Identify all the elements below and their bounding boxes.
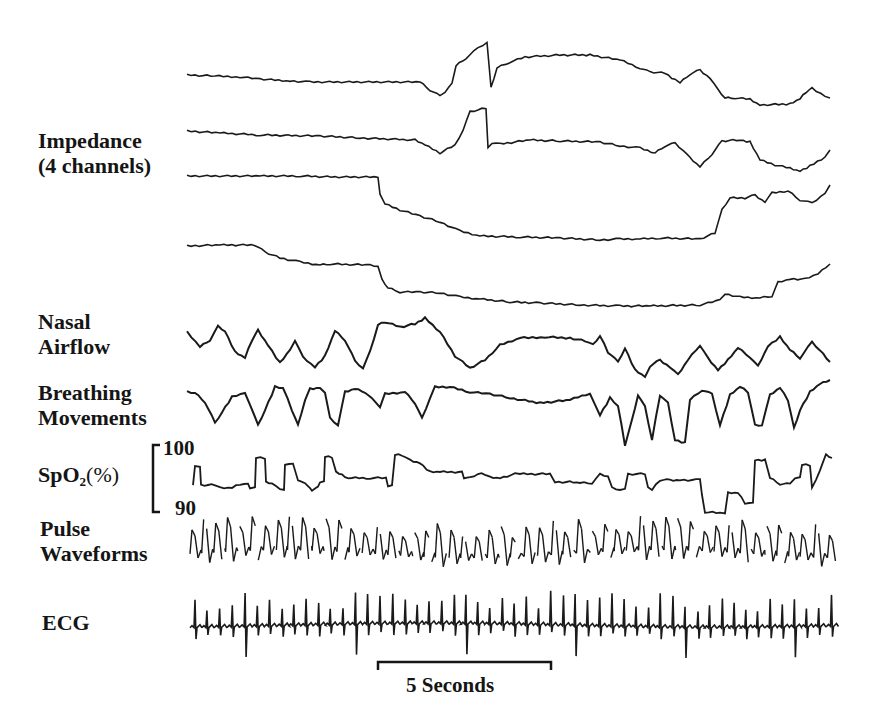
trace-canvas (0, 0, 873, 728)
pulse-waveform-trace (190, 516, 835, 567)
trace-breathing-movements (187, 380, 830, 446)
time-scale-bar (378, 662, 551, 670)
trace-impedance-ch3 (187, 175, 830, 240)
ecg-polyline (190, 591, 839, 658)
trace-impedance-ch4 (187, 244, 830, 307)
trace-spo2- (193, 454, 832, 513)
spo2-scale-bracket (153, 445, 160, 512)
ecg-trace (190, 591, 839, 658)
trace-nasal-airflow (187, 317, 830, 377)
trace-impedance-ch2 (187, 108, 830, 171)
trace-impedance-ch1 (187, 42, 830, 105)
trace-group (187, 42, 832, 513)
